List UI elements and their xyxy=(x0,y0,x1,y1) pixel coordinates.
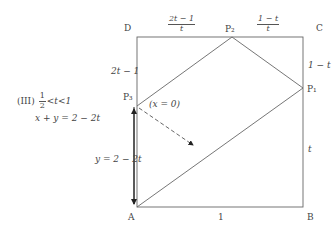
point-P3: P₃ xyxy=(123,93,133,102)
case-condition: (III) 1 2 <t<1 xyxy=(17,92,71,111)
label-P2C-fraction: 1 − t t xyxy=(257,15,279,34)
label-DP2-fraction: 2t − 1 t xyxy=(168,15,195,34)
case-label: (III) xyxy=(17,96,35,106)
unit-square xyxy=(137,37,303,207)
dashed-direction-arrow xyxy=(139,108,193,145)
label-x-equals-0: (x = 0) xyxy=(149,100,180,109)
reflection-path xyxy=(137,37,303,207)
label-AP3: y = 2 − 2t xyxy=(95,155,142,164)
label-CP1: 1 − t xyxy=(308,61,331,70)
label-AB: 1 xyxy=(218,213,224,222)
vertex-C: C xyxy=(316,24,323,33)
vertex-D: D xyxy=(124,24,131,33)
label-P2C-den: t xyxy=(266,25,269,34)
label-BP1: t xyxy=(308,145,312,154)
vertex-B: B xyxy=(307,213,314,222)
point-P1: P₁ xyxy=(307,85,317,94)
point-P2: P₂ xyxy=(225,25,235,34)
half-den: 2 xyxy=(40,102,45,111)
label-DP2-den: t xyxy=(180,25,183,34)
vertex-A: A xyxy=(128,213,135,222)
line-equation: x + y = 2 − 2t xyxy=(35,114,100,123)
inequality: <t<1 xyxy=(47,96,71,106)
label-DP3: 2t − 1 xyxy=(111,67,139,76)
half-fraction: 1 2 xyxy=(39,92,46,111)
